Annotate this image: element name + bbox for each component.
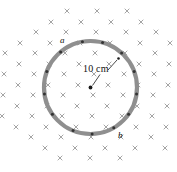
field-into-page-x-icon	[59, 135, 64, 140]
field-into-page-x-icon	[103, 146, 108, 151]
field-into-page-x-icon	[34, 30, 39, 35]
field-into-page-x-icon	[16, 83, 21, 88]
field-into-page-x-icon	[48, 41, 53, 46]
field-into-page-x-icon	[138, 41, 143, 46]
field-into-page-x-icon	[168, 41, 173, 46]
loop-center-dot	[89, 86, 93, 90]
loop-ring-speck	[45, 70, 48, 73]
field-into-page-x-icon	[49, 20, 54, 25]
loop-ring-speck	[72, 129, 75, 132]
field-into-page-x-icon	[153, 51, 158, 56]
field-into-page-x-icon	[62, 72, 67, 77]
magnetic-field-loop-diagram: a b 10 cm	[0, 0, 177, 172]
field-into-page-x-icon	[88, 156, 93, 161]
field-into-page-x-icon	[77, 62, 82, 67]
label-point-a: a	[60, 36, 65, 45]
loop-ring-speck	[43, 92, 46, 95]
field-into-page-x-icon	[125, 9, 130, 14]
field-into-page-x-icon	[65, 9, 70, 14]
loop-ring-speck	[51, 113, 54, 116]
field-into-page-x-icon	[29, 135, 34, 140]
loop-ring-speck	[120, 51, 123, 54]
label-radius-value: 10 cm	[83, 64, 109, 74]
loop-ring-speck	[135, 92, 138, 95]
field-into-page-x-icon	[2, 72, 7, 77]
field-into-page-x-icon	[79, 20, 84, 25]
field-into-page-x-icon	[58, 156, 63, 161]
field-into-page-x-icon	[30, 114, 35, 119]
field-into-page-x-icon	[166, 83, 171, 88]
field-into-page-x-icon	[91, 93, 96, 98]
field-into-page-x-icon	[106, 83, 111, 88]
magnetic-field-x-grid	[0, 9, 172, 161]
field-into-page-x-icon	[3, 51, 8, 56]
field-into-page-x-icon	[17, 62, 22, 67]
loop-ring-speck	[127, 113, 130, 116]
field-into-page-x-icon	[60, 114, 65, 119]
field-into-page-x-icon	[15, 104, 20, 109]
field-into-page-x-icon	[46, 83, 51, 88]
field-into-page-x-icon	[139, 20, 144, 25]
field-into-page-x-icon	[165, 104, 170, 109]
field-into-page-x-icon	[150, 114, 155, 119]
loop-ring-speck	[133, 70, 136, 73]
field-into-page-x-icon	[163, 146, 168, 151]
field-into-page-x-icon	[124, 30, 129, 35]
field-into-page-x-icon	[64, 30, 69, 35]
field-into-page-x-icon	[74, 125, 79, 130]
field-into-page-x-icon	[95, 9, 100, 14]
field-into-page-x-icon	[149, 135, 154, 140]
field-into-page-x-icon	[18, 41, 23, 46]
field-into-page-x-icon	[133, 146, 138, 151]
field-into-page-x-icon	[14, 125, 19, 130]
point-leader-line	[108, 60, 117, 70]
field-into-page-x-icon	[93, 51, 98, 56]
upper-right-point-dot	[117, 57, 120, 60]
field-into-page-x-icon	[90, 114, 95, 119]
loop-ring-speck	[101, 41, 104, 44]
field-into-page-x-icon	[32, 72, 37, 77]
field-into-page-x-icon	[73, 146, 78, 151]
field-into-page-x-icon	[134, 125, 139, 130]
field-into-page-x-icon	[151, 93, 156, 98]
label-point-b: b	[118, 131, 123, 140]
field-into-page-x-icon	[118, 156, 123, 161]
field-into-page-x-icon	[164, 125, 169, 130]
field-into-page-x-icon	[152, 72, 157, 77]
field-into-page-x-icon	[122, 72, 127, 77]
field-into-page-x-icon	[94, 30, 99, 35]
loop-ring-speck	[81, 40, 84, 43]
field-into-page-x-icon	[105, 104, 110, 109]
loop-ring-speck	[91, 132, 94, 135]
field-into-page-x-icon	[31, 93, 36, 98]
field-into-page-x-icon	[75, 104, 80, 109]
field-into-page-x-icon	[43, 146, 48, 151]
field-into-page-x-icon	[44, 125, 49, 130]
field-into-page-x-icon	[167, 62, 172, 67]
loop-ring-speck	[59, 50, 62, 53]
field-into-page-x-icon	[76, 83, 81, 88]
field-into-page-x-icon	[61, 93, 66, 98]
field-into-page-x-icon	[154, 30, 159, 35]
field-into-page-x-icon	[121, 93, 126, 98]
field-into-page-x-icon	[109, 20, 114, 25]
field-into-page-x-icon	[137, 62, 142, 67]
diagram-canvas	[0, 0, 177, 172]
field-into-page-x-icon	[33, 51, 38, 56]
field-into-page-x-icon	[1, 93, 6, 98]
field-into-page-x-icon	[0, 114, 4, 119]
loop-ring-speck	[112, 126, 115, 129]
